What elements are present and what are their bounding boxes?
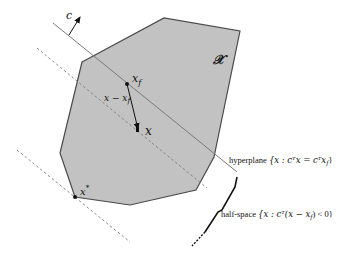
feasible-set-polygon [60, 18, 240, 205]
diagram-svg: c 𝒳 xf x − xf x x* hyperplane {x : cᵀx =… [0, 0, 348, 260]
point-xstar [73, 195, 77, 199]
cost-vector-label: c [66, 9, 72, 22]
hyperplane-label: hyperplane {x : cᵀx = cᵀxf} [229, 155, 332, 167]
point-x [136, 126, 139, 132]
halfspace-label: half-space {x : cᵀ(x − xf) < 0} [221, 209, 333, 221]
point-x-label: x [145, 124, 152, 138]
halfspace-boundary [205, 177, 237, 232]
diagram-canvas: c 𝒳 xf x − xf x x* hyperplane {x : cᵀx =… [0, 0, 348, 260]
halfspace-boundary-tail [192, 232, 205, 246]
